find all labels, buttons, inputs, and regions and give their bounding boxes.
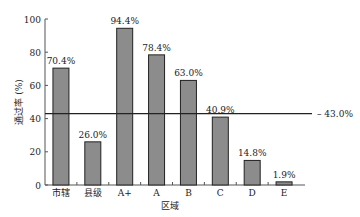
bar-value-label: 14.8% [238,148,267,158]
data-labels: 70.4%26.0%94.4%78.4%63.0%40.9%14.8%1.9% [47,16,296,180]
bar [149,55,165,185]
y-tick-label: 40 [30,114,42,124]
reference-line-label: – 43.0% [317,109,353,119]
y-tick-label: 0 [35,181,41,191]
reference-line: – 43.0% [45,109,353,119]
x-tick-label: A+ [117,188,132,198]
x-tick-label: 县级 [84,187,102,198]
bar-value-label: 1.9% [273,170,296,180]
y-tick-label: 20 [30,147,42,157]
bar-value-label: 94.4% [110,16,139,26]
y-tick-label: 100 [24,15,41,25]
bars [53,28,292,185]
y-axis-label: 通过率 (%) [13,79,24,124]
bar [85,142,101,185]
x-tick-label: D [249,188,256,198]
bar-value-label: 63.0% [174,68,203,78]
bar [117,28,133,185]
x-tick-label: C [217,188,224,198]
bar [180,80,196,185]
bar-value-label: 26.0% [79,130,108,140]
y-tick-label: 80 [30,48,42,58]
x-axis-label: 区域 [161,200,179,211]
bar [212,117,228,185]
x-tick-label: A [152,188,160,198]
x-tick-label: 市辖 [52,187,70,198]
bar [244,160,260,185]
x-tick-label: B [185,188,192,198]
bar-value-label: 78.4% [142,43,171,53]
x-tick-label: E [281,188,288,198]
y-tick-label: 60 [30,81,42,91]
bar-value-label: 70.4% [47,56,76,66]
bar-chart: 020406080100市辖县级A+ABCDE 70.4%26.0%94.4%7… [0,0,360,217]
bar [53,68,69,185]
bar [276,182,292,185]
